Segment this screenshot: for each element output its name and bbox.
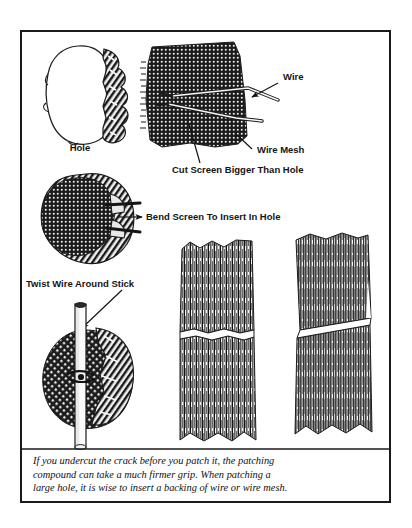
- wood-block-upper: [180, 240, 254, 333]
- figure-root: Hole Wire Wire Mesh Cut Screen Bigger Th…: [0, 0, 412, 528]
- label-bend-screen-to-insert-in-hole: Bend Screen To Insert In Hole: [146, 211, 280, 222]
- illustration-crack-square-edges: [180, 240, 256, 441]
- hole-edge-path: [46, 46, 107, 144]
- wood-block-lower-undercut: [295, 325, 372, 434]
- stick-top-end: [75, 303, 86, 308]
- instructional-figure: Hole Wire Wire Mesh Cut Screen Bigger Th…: [0, 0, 412, 528]
- bent-mesh-screen: [41, 178, 114, 256]
- wood-block-lower: [180, 336, 256, 441]
- label-hole: Hole: [70, 142, 91, 153]
- caption-line-1: If you undercut the crack before you pat…: [32, 455, 274, 466]
- figure-caption: If you undercut the crack before you pat…: [32, 455, 287, 493]
- caption-line-2: compound can take a much firmer grip. Wh…: [33, 469, 271, 480]
- label-cut-screen-bigger-than-hole: Cut Screen Bigger Than Hole: [172, 164, 303, 175]
- label-wire: Wire: [283, 71, 304, 82]
- twisted-wire-knot: [78, 374, 84, 380]
- label-twist-wire-around-stick: Twist Wire Around Stick: [26, 278, 135, 289]
- caption-line-3: large hole, it is wise to insert a backi…: [33, 482, 287, 493]
- wood-block-upper-undercut: [296, 233, 371, 330]
- illustration-crack-undercut-edges: [295, 233, 372, 434]
- label-wire-mesh: Wire Mesh: [257, 144, 305, 155]
